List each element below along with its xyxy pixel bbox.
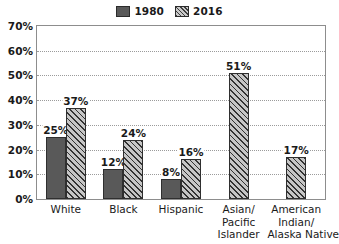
x-axis: WhiteBlackHispanicAsian/PacificIslanderA… [37,203,325,244]
y-axis-tick-label: 70% [0,21,33,31]
y-axis-tick-label: 10% [0,169,33,179]
bar-2016[interactable]: 24% [123,140,143,199]
x-axis-tick-label: Asian/PacificIslander [210,203,268,241]
legend-label-2016: 2016 [193,6,223,17]
y-axis-tick-label: 50% [0,70,33,80]
bar-value-label: 8% [161,167,181,178]
bars-layer: 25%37%12%24%8%16%51%17% [37,26,325,199]
x-axis-tick-label: White [37,203,95,216]
bar-2016[interactable]: 16% [181,159,201,199]
x-axis-tick-label: Black [95,203,153,216]
x-axis-tick-label: AmericanIndian/Alaska Native [267,203,325,241]
bar-group: 25%37% [37,26,95,199]
y-axis-tick-label: 40% [0,95,33,105]
bar-group: 51% [210,26,268,199]
bar-value-label: 51% [225,61,252,72]
solid-swatch-icon [116,6,130,17]
bar-2016[interactable]: 17% [286,157,306,199]
bar-value-label: 24% [120,128,147,139]
bar-1980[interactable]: 12% [103,169,123,199]
bar-group: 8%16% [152,26,210,199]
x-axis-tick-label: Hispanic [152,203,210,216]
bar-value-label: 16% [177,147,204,158]
y-axis: 0%10%20%30%40%50%60%70% [0,25,33,200]
bar-1980[interactable]: 25% [46,137,66,199]
y-axis-tick-label: 30% [0,120,33,130]
y-axis-tick-label: 20% [0,145,33,155]
bar-group: 12%24% [95,26,153,199]
y-axis-tick-label: 60% [0,46,33,56]
legend-label-1980: 1980 [134,6,164,17]
legend-item-2016: 2016 [175,6,223,17]
hatch-swatch-icon [175,6,189,17]
bar-2016[interactable]: 37% [66,108,86,199]
legend-item-1980: 1980 [116,6,164,17]
bar-group: 17% [267,26,325,199]
bar-2016[interactable]: 51% [229,73,249,199]
bar-value-label: 37% [62,96,89,107]
bar-value-label: 17% [283,145,310,156]
y-axis-tick-label: 0% [0,194,33,204]
chart-legend: 1980 2016 [0,3,339,19]
bar-1980[interactable]: 8% [161,179,181,199]
